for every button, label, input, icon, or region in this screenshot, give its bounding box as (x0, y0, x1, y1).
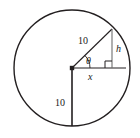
figure-container: 10 10 h x θ (0, 0, 140, 138)
vertical-radius-length-label: 10 (55, 98, 65, 108)
base-length-label: x (88, 72, 92, 82)
geometry-diagram (0, 0, 140, 138)
hypotenuse-length-label: 10 (78, 36, 88, 46)
angle-theta-label: θ (86, 56, 91, 66)
height-label: h (116, 44, 121, 54)
right-angle-marker (105, 61, 112, 68)
center-point-dot (70, 66, 74, 70)
